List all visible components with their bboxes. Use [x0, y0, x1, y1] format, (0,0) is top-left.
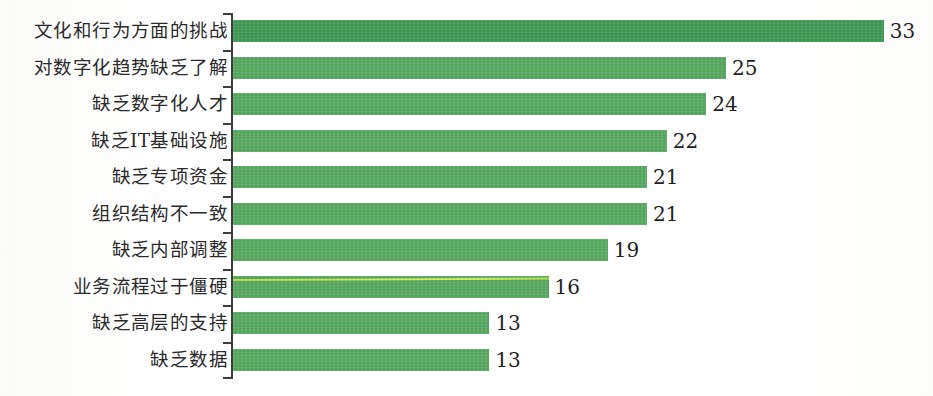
bar-row: 文化和行为方面的挑战 33 — [0, 13, 933, 50]
scan-artifact-streak — [233, 277, 549, 280]
bar — [233, 57, 726, 79]
bar-value-label: 24 — [712, 94, 737, 114]
bar-group: 13 — [233, 312, 521, 334]
bar — [233, 166, 647, 188]
bar — [233, 130, 667, 152]
bar-group: 21 — [233, 166, 679, 188]
bar-value-label: 19 — [614, 240, 639, 260]
category-label: 文化和行为方面的挑战 — [0, 22, 228, 41]
bar — [233, 239, 608, 261]
bar-group: 21 — [233, 203, 679, 225]
bar-group: 24 — [233, 93, 738, 115]
category-label: 缺乏内部调整 — [0, 241, 228, 260]
bar — [233, 203, 647, 225]
bar-value-label: 16 — [555, 277, 580, 297]
bar-group: 22 — [233, 130, 698, 152]
bar-row: 业务流程过于僵硬 16 — [0, 269, 933, 306]
bar-row: 组织结构不一致 21 — [0, 196, 933, 233]
bar-group: 16 — [233, 276, 580, 298]
category-label: 缺乏IT基础设施 — [0, 132, 228, 151]
bar-value-label: 13 — [495, 313, 520, 333]
bar-row: 缺乏高层的支持 13 — [0, 305, 933, 342]
bar — [233, 93, 706, 115]
bar-row: 缺乏数据 13 — [0, 342, 933, 379]
bar-group: 33 — [233, 20, 915, 42]
bar-row: 缺乏数字化人才 24 — [0, 86, 933, 123]
category-label: 组织结构不一致 — [0, 205, 228, 224]
bar-row: 缺乏专项资金 21 — [0, 159, 933, 196]
bar-group: 19 — [233, 239, 639, 261]
bar — [233, 20, 884, 42]
category-label: 业务流程过于僵硬 — [0, 278, 228, 297]
category-label: 对数字化趋势缺乏了解 — [0, 59, 228, 78]
bar-group: 25 — [233, 57, 757, 79]
bar-row: 缺乏IT基础设施 22 — [0, 123, 933, 160]
category-label: 缺乏数据 — [0, 351, 228, 370]
plot-area: 文化和行为方面的挑战 33 对数字化趋势缺乏了解 25 缺乏数字化人才 24 缺… — [0, 0, 933, 396]
bar-value-label: 13 — [495, 350, 520, 370]
category-label: 缺乏专项资金 — [0, 168, 228, 187]
bar-group: 13 — [233, 349, 521, 371]
bar-value-label: 21 — [653, 167, 678, 187]
category-label: 缺乏高层的支持 — [0, 314, 228, 333]
bar-value-label: 22 — [673, 131, 698, 151]
bar-row: 对数字化趋势缺乏了解 25 — [0, 50, 933, 87]
category-label: 缺乏数字化人才 — [0, 95, 228, 114]
bar — [233, 312, 489, 334]
bar-row: 缺乏内部调整 19 — [0, 232, 933, 269]
bar — [233, 276, 549, 298]
bar-value-label: 21 — [653, 204, 678, 224]
bar-chart: 文化和行为方面的挑战 33 对数字化趋势缺乏了解 25 缺乏数字化人才 24 缺… — [0, 0, 933, 396]
bar-value-label: 33 — [890, 21, 915, 41]
bar-value-label: 25 — [732, 58, 757, 78]
bar — [233, 349, 489, 371]
